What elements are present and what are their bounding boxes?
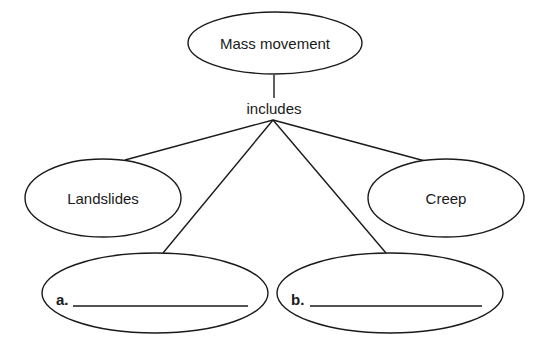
blank-a-label: a.: [56, 291, 69, 308]
creep-label: Creep: [426, 190, 467, 207]
blank-a-ellipse: [42, 253, 268, 333]
root-node: Mass movement: [188, 12, 362, 74]
edge-includes-to-blank-b: [273, 120, 386, 253]
blank-b-label: b.: [291, 291, 304, 308]
edge-includes-to-blank-a: [163, 120, 273, 253]
child-node-creep: Creep: [368, 159, 524, 237]
edge-includes-to-creep: [273, 120, 425, 161]
blank-node-b[interactable]: b.: [277, 253, 503, 333]
child-node-landslides: Landslides: [25, 159, 181, 237]
root-label: Mass movement: [220, 35, 331, 52]
connector-label: includes: [246, 100, 301, 117]
blank-b-ellipse: [277, 253, 503, 333]
edge-includes-to-landslides: [125, 120, 273, 160]
landslides-label: Landslides: [67, 190, 139, 207]
concept-map-canvas: Mass movement includes Landslides Creep …: [0, 0, 549, 346]
blank-node-a[interactable]: a.: [42, 253, 268, 333]
